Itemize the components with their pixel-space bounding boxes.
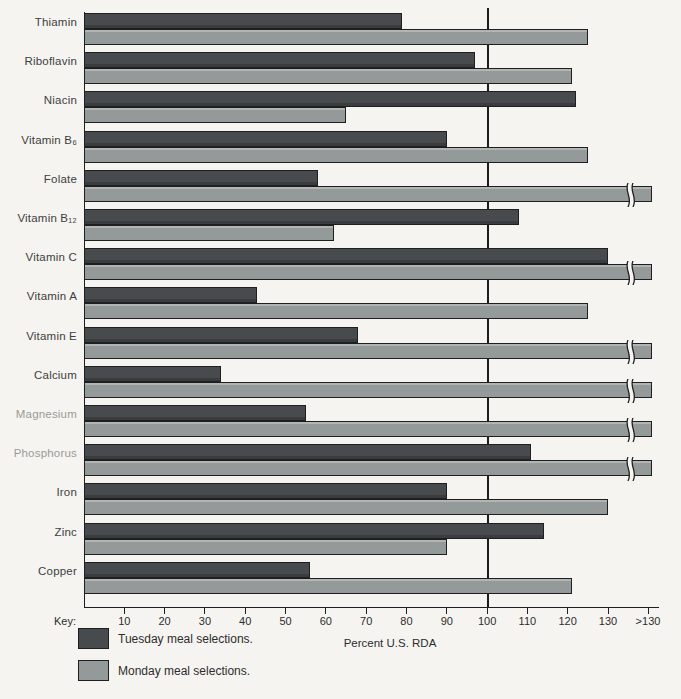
bar-monday — [84, 225, 334, 241]
bar-tuesday — [84, 13, 402, 29]
bar-tuesday — [84, 91, 576, 107]
bar-tuesday — [84, 52, 475, 68]
axis-tick-label: 10 — [102, 615, 146, 627]
bar-tuesday — [84, 327, 358, 343]
category-label: Copper — [0, 563, 77, 579]
bar-monday — [84, 343, 652, 359]
axis-tick — [406, 608, 407, 614]
axis-tick-label: 120 — [546, 615, 590, 627]
legend-key-label: Key: — [54, 615, 76, 627]
axis-tick-label: 70 — [344, 615, 388, 627]
axis-tick — [124, 608, 125, 614]
axis-tick — [204, 608, 205, 614]
category-label: Calcium — [0, 367, 77, 383]
bar-tuesday — [84, 366, 221, 382]
axis-tick — [608, 608, 609, 614]
axis-break-icon — [625, 457, 637, 481]
axis-tick-label: 90 — [425, 615, 469, 627]
axis-tick-label: 110 — [505, 615, 549, 627]
axis-tick-label: 100 — [465, 615, 509, 627]
axis-break-icon — [625, 418, 637, 442]
category-label: Magnesium — [0, 406, 77, 422]
bar-monday — [84, 382, 652, 398]
axis-tick — [245, 608, 246, 614]
bar-tuesday — [84, 131, 447, 147]
bar-tuesday — [84, 562, 310, 578]
axis-tick — [164, 608, 165, 614]
axis-tick — [285, 608, 286, 614]
bar-monday — [84, 539, 447, 555]
axis-tick-label: 60 — [304, 615, 348, 627]
bar-tuesday — [84, 444, 531, 460]
legend-label-tuesday: Tuesday meal selections. — [118, 632, 253, 646]
bar-tuesday — [84, 248, 608, 264]
bar-tuesday — [84, 523, 544, 539]
category-label: Iron — [0, 484, 77, 500]
axis-tick — [567, 608, 568, 614]
category-label: Vitamin E — [0, 328, 77, 344]
axis-tick — [366, 608, 367, 614]
axis-tick-label: 30 — [183, 615, 227, 627]
axis-tick — [325, 608, 326, 614]
axis-tick-label: 20 — [143, 615, 187, 627]
bar-monday — [84, 29, 588, 45]
bar-monday — [84, 107, 346, 123]
axis-break-icon — [625, 379, 637, 403]
category-label: Thiamin — [0, 14, 77, 30]
bar-tuesday — [84, 287, 257, 303]
category-label: Vitamin B₁₂ — [0, 210, 77, 226]
bar-tuesday — [84, 405, 306, 421]
axis-break-icon — [625, 183, 637, 207]
bar-monday — [84, 460, 652, 476]
category-label: Riboflavin — [0, 53, 77, 69]
category-label: Zinc — [0, 524, 77, 540]
category-label: Folate — [0, 171, 77, 187]
axis-tick — [487, 608, 488, 614]
x-axis-title: Percent U.S. RDA — [290, 637, 490, 649]
axis-tick — [527, 608, 528, 614]
bar-monday — [84, 264, 652, 280]
legend-swatch-tuesday — [78, 628, 109, 649]
category-label: Niacin — [0, 92, 77, 108]
axis-tick-label: 50 — [264, 615, 308, 627]
legend-label-monday: Monday meal selections. — [118, 664, 250, 678]
axis-break-icon — [625, 261, 637, 285]
bar-tuesday — [84, 170, 318, 186]
legend-swatch-monday — [78, 660, 109, 681]
axis-tick-label: >130 — [626, 615, 670, 627]
bar-monday — [84, 303, 588, 319]
axis-tick-label: 80 — [384, 615, 428, 627]
rda-bar-chart: Percent U.S. RDA Key: Tuesday meal selec… — [0, 0, 681, 699]
bar-monday — [84, 421, 652, 437]
axis-tick-label: 130 — [586, 615, 630, 627]
bar-monday — [84, 578, 572, 594]
axis-tick — [446, 608, 447, 614]
bar-tuesday — [84, 483, 447, 499]
bar-tuesday — [84, 209, 519, 225]
axis-tick-label: 40 — [223, 615, 267, 627]
axis-tick — [648, 608, 649, 614]
axis-break-icon — [625, 340, 637, 364]
bar-monday — [84, 186, 652, 202]
x-axis-line — [84, 607, 659, 608]
bar-monday — [84, 499, 608, 515]
bar-monday — [84, 147, 588, 163]
category-label: Vitamin C — [0, 249, 77, 265]
category-label: Phosphorus — [0, 445, 77, 461]
category-label: Vitamin B₆ — [0, 132, 77, 148]
bar-monday — [84, 68, 572, 84]
category-label: Vitamin A — [0, 288, 77, 304]
